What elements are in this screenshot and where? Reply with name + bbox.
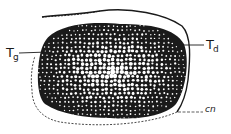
label-cn: cn [205,105,216,114]
label-tg-main: T [6,45,13,60]
label-td: Td [206,38,218,51]
label-td-sub: d [213,44,218,54]
label-tg: Tg [6,46,18,59]
cellular-tissue-mass [35,21,189,120]
figure-canvas: Tg Td cn [0,0,231,134]
label-tg-sub: g [13,52,18,62]
tissue-section-drawing [0,0,231,134]
label-td-main: T [206,37,213,52]
